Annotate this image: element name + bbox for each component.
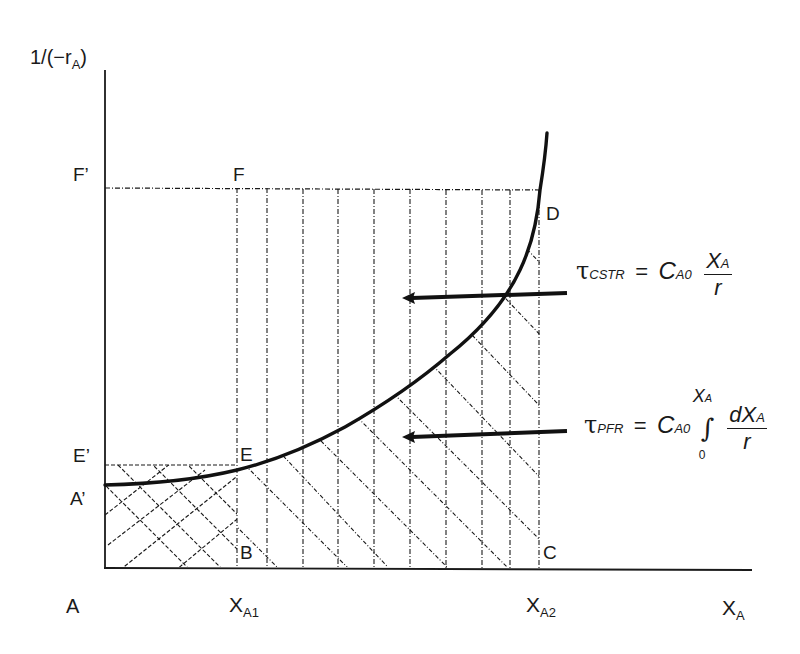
integral-icon: ∫ xyxy=(701,415,715,441)
pfr-tau-sub: PFR xyxy=(597,421,623,436)
cstr-arrow xyxy=(402,292,567,304)
x-tick-xa2: XA2 xyxy=(526,594,556,619)
rate-curve xyxy=(105,133,547,485)
point-f: F xyxy=(233,165,245,184)
pfr-tau: τ xyxy=(584,411,597,439)
pfr-numerator-sub: A xyxy=(756,410,765,425)
x-tick-xa2-main: X xyxy=(526,593,540,616)
point-a-prime: A’ xyxy=(70,489,85,508)
cstr-denominator: r xyxy=(704,275,731,299)
pfr-arrow xyxy=(402,431,567,443)
cstr-coef: C xyxy=(658,257,675,284)
x-axis xyxy=(104,568,752,570)
cstr-equals: = xyxy=(635,259,648,284)
pfr-numerator-main: dX xyxy=(729,402,756,427)
origin-label: A xyxy=(66,596,79,616)
diagram-canvas xyxy=(0,0,800,654)
cstr-tau: τ xyxy=(576,257,589,285)
x-axis-label: XA xyxy=(722,597,745,622)
cstr-equation: τCSTR = CA0 XA r xyxy=(576,250,732,299)
point-c: C xyxy=(543,543,557,562)
x-axis-label-main: X xyxy=(722,596,736,619)
cstr-vertical-hatching xyxy=(237,188,539,569)
f-prime-line xyxy=(105,188,541,190)
x-tick-xa1: XA1 xyxy=(229,594,259,619)
point-d: D xyxy=(546,204,560,223)
point-b: B xyxy=(240,543,253,562)
pfr-integral-upper: XA xyxy=(693,387,712,405)
cstr-fraction: XA r xyxy=(704,250,731,299)
x-tick-xa1-sub: A1 xyxy=(243,605,259,620)
y-axis-label-main: 1/(−r xyxy=(30,46,72,68)
cstr-numerator: XA xyxy=(704,250,731,275)
cstr-numerator-sub: A xyxy=(721,256,730,271)
cstr-tau-sub: CSTR xyxy=(589,267,624,282)
point-e: E xyxy=(240,445,253,464)
pfr-fraction: dXA r xyxy=(727,404,767,453)
x-tick-xa2-sub: A2 xyxy=(540,605,556,620)
pfr-equals: = xyxy=(634,413,647,438)
pfr-denominator: r xyxy=(727,429,767,453)
pfr-integral: XA ∫ 0 xyxy=(699,409,715,449)
pfr-upper-main: X xyxy=(693,386,705,406)
x-tick-xa1-main: X xyxy=(229,593,243,616)
x-axis-label-sub: A xyxy=(736,608,745,623)
pfr-integral-lower: 0 xyxy=(699,449,706,461)
point-e-prime: E’ xyxy=(73,446,90,465)
levenspiel-diagram: 1/(−rA) A XA1 XA2 XA F’ F D E’ A’ E B C … xyxy=(0,0,800,654)
cstr-coef-sub: A0 xyxy=(676,267,692,282)
y-axis-label: 1/(−rA) xyxy=(30,47,87,71)
pfr-coef: C xyxy=(657,411,674,438)
pfr-upper-sub: A xyxy=(705,392,712,404)
y-axis-label-close: ) xyxy=(80,46,87,68)
pfr-diagonal-hatching xyxy=(170,180,680,580)
cstr-numerator-main: X xyxy=(706,248,721,273)
pfr-coef-sub: A0 xyxy=(674,421,690,436)
pfr-equation: τPFR = CA0 XA ∫ 0 dXA r xyxy=(584,404,767,453)
point-f-prime: F’ xyxy=(73,165,89,184)
pfr-numerator: dXA xyxy=(727,404,767,429)
